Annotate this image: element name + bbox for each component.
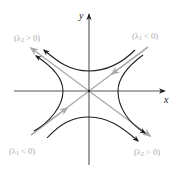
y-axis-label: y [79, 11, 83, 21]
unstable-eigenvector-se [89, 91, 150, 136]
stable-eigenvector-ne-arrow [112, 47, 148, 74]
x-axis-label: x [164, 95, 168, 105]
eigen-label-bottom-right: (λ2 > 0) [134, 148, 160, 157]
eigen-label-open: (λ [14, 33, 21, 43]
eigen-label-top-right: (λ1 < 0) [132, 32, 158, 41]
stable-eigenvector-sw-arrow [31, 108, 67, 135]
eigen-label-open: (λ [132, 31, 139, 41]
trajectory-left-lower [34, 91, 63, 131]
eigen-label-rest: > 0) [144, 147, 160, 157]
eigen-label-rest: < 0) [19, 146, 35, 156]
eigen-label-open: (λ [9, 146, 16, 156]
eigen-label-bottom-left: (λ1 < 0) [9, 147, 35, 156]
trajectory-bottom-left [47, 117, 89, 138]
eigen-label-rest: > 0) [24, 33, 40, 43]
eigen-label-open: (λ [134, 147, 141, 157]
trajectory-right-lower [118, 91, 145, 133]
unstable-eigenvector-nw [31, 48, 89, 91]
eigen-label-top-left: (λ2 > 0) [14, 34, 40, 43]
origin-point [88, 90, 90, 92]
eigen-label-rest: < 0) [142, 31, 158, 41]
